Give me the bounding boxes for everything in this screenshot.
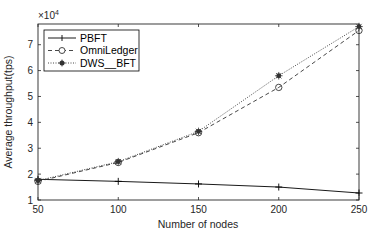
x-tick-label: 200 (270, 204, 287, 215)
asterisk-marker-icon (195, 128, 203, 136)
circle-marker-icon (59, 48, 65, 54)
y-tick-label: 2 (27, 169, 33, 180)
x-axis-label: Number of nodes (158, 218, 239, 230)
asterisk-marker-icon (34, 177, 42, 185)
legend-label: PBFT (80, 32, 107, 44)
asterisk-marker-icon (275, 72, 283, 80)
series-pbft (35, 176, 363, 197)
y-tick-label: 7 (27, 39, 33, 50)
y-tick-label: 3 (27, 143, 33, 154)
legend-label: OmniLedger (80, 44, 138, 56)
y-tick-label: 1 (27, 195, 33, 206)
asterisk-marker-icon (355, 23, 363, 31)
y-tick-label: 4 (27, 117, 33, 128)
legend-label: DWS__BFT (80, 57, 137, 69)
x-tick-label: 150 (190, 204, 207, 215)
x-tick-label: 50 (32, 204, 44, 215)
y-tick-label: 5 (27, 91, 33, 102)
line-chart: 501001502002501234567 ×104 Number of nod… (0, 0, 382, 239)
x-tick-label: 100 (110, 204, 127, 215)
legend: PBFT OmniLedger DWS__BFT (44, 30, 139, 71)
y-exponent-label: ×104 (38, 9, 59, 21)
x-tick-label: 250 (351, 204, 368, 215)
y-tick-label: 6 (27, 65, 33, 76)
asterisk-marker-icon (114, 158, 122, 166)
y-axis-label: Average throughput(tps) (2, 55, 14, 168)
